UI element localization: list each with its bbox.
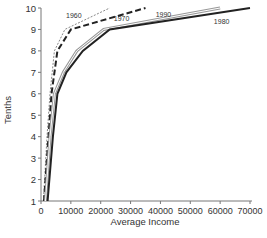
series-label-1990: 1990 xyxy=(156,11,172,18)
y-tick-label: 10 xyxy=(25,3,36,14)
series-label-1960: 1960 xyxy=(66,12,82,19)
y-tick-label: 3 xyxy=(31,153,36,164)
series-lines xyxy=(43,8,250,201)
x-tick-label: 70000 xyxy=(237,206,262,216)
series-line-1980 xyxy=(48,8,250,201)
y-tick-label: 6 xyxy=(31,88,36,99)
series-line-1990 xyxy=(46,8,221,201)
y-tick-label: 7 xyxy=(31,67,36,78)
x-tick-label: 30000 xyxy=(118,206,143,216)
x-tick-label: 10000 xyxy=(58,206,83,216)
series-label-1970: 1970 xyxy=(114,15,130,22)
x-tick-label: 0 xyxy=(38,206,43,216)
x-tick-label: 20000 xyxy=(88,206,113,216)
y-tick-label: 2 xyxy=(31,174,36,185)
chart: 0100002000030000400005000060000700001234… xyxy=(0,0,267,238)
axes: 0100002000030000400005000060000700001234… xyxy=(25,3,262,217)
x-tick-label: 60000 xyxy=(208,206,233,216)
y-axis-label: Tenths xyxy=(2,96,13,124)
series-line-1990-inner xyxy=(46,8,221,201)
x-tick-label: 50000 xyxy=(178,206,203,216)
line-chart: 0100002000030000400005000060000700001234… xyxy=(0,0,267,238)
x-axis-label: Average Income xyxy=(110,216,179,227)
y-tick-label: 1 xyxy=(31,196,36,207)
series-label-1980: 1980 xyxy=(214,18,230,25)
y-tick-label: 8 xyxy=(31,45,36,56)
y-tick-label: 5 xyxy=(31,110,36,121)
y-tick-label: 9 xyxy=(31,24,36,35)
y-tick-label: 4 xyxy=(31,131,36,142)
x-tick-label: 40000 xyxy=(148,206,173,216)
